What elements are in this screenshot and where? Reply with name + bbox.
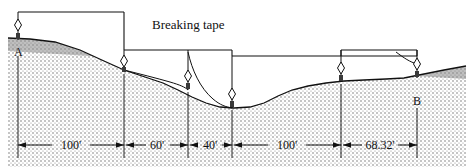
breaking-tape-annotation: Breaking tape (152, 17, 225, 32)
dimension-label-100-first: 100' (61, 138, 81, 152)
breaking-tape-figure: A B Breaking tape 100' (0, 0, 474, 167)
plumb-bob-sta-160 (185, 50, 192, 90)
point-label-a: A (14, 45, 23, 59)
dimension-label-60: 60' (150, 138, 164, 152)
point-label-b: B (413, 94, 421, 108)
dimension-label-40: 40' (203, 138, 217, 152)
slack-curve-right (396, 52, 417, 64)
plumb-bob-a (15, 12, 22, 40)
dimension-label-100-second: 100' (277, 138, 297, 152)
plumb-bob-sta-200 (229, 56, 236, 108)
dimension-label-68-32: 68.32' (365, 138, 394, 152)
plumb-bob-b (414, 50, 421, 78)
figure-canvas: A B Breaking tape 100' (0, 0, 474, 167)
plumb-bob-sta-300 (338, 50, 345, 82)
